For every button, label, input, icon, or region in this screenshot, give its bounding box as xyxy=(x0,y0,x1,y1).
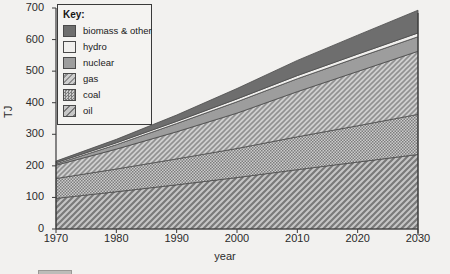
legend-label: nuclear xyxy=(83,58,114,68)
legend-item: hydro xyxy=(63,39,146,54)
legend-swatch-oil xyxy=(63,105,76,117)
legend-label: coal xyxy=(83,90,100,100)
legend-title: Key: xyxy=(63,9,146,20)
x-tick-label: 2010 xyxy=(275,233,319,244)
cropped-chip xyxy=(38,270,72,274)
y-tick-label: 500 xyxy=(10,65,44,76)
legend-label: biomass & other xyxy=(83,26,152,36)
y-tick-label: 300 xyxy=(10,128,44,139)
legend-label: hydro xyxy=(83,42,107,52)
legend-label: oil xyxy=(83,106,93,116)
cropped-bottom-strip xyxy=(0,268,450,274)
stacked-area-chart: 0100200300400500600700 19701980199020002… xyxy=(0,0,450,274)
legend-swatch-hydro xyxy=(63,41,76,53)
y-tick-label: 600 xyxy=(10,34,44,45)
y-tick-label: 100 xyxy=(10,191,44,202)
x-axis-title: year xyxy=(0,250,450,262)
x-tick-label: 1990 xyxy=(155,233,199,244)
legend-swatch-gas xyxy=(63,73,76,85)
legend-item: oil xyxy=(63,103,146,118)
y-tick-label: 700 xyxy=(10,2,44,13)
x-tick-label: 2030 xyxy=(396,233,440,244)
legend-item: gas xyxy=(63,71,146,86)
legend-swatch-biomass-other xyxy=(63,25,76,37)
legend-swatch-coal xyxy=(63,89,76,101)
y-tick-label: 400 xyxy=(10,97,44,108)
legend-swatch-nuclear xyxy=(63,57,76,69)
y-tick-label: 200 xyxy=(10,160,44,171)
x-tick-label: 2000 xyxy=(215,233,259,244)
x-tick-label: 2020 xyxy=(336,233,380,244)
x-tick-label: 1980 xyxy=(94,233,138,244)
legend-item: biomass & other xyxy=(63,23,146,38)
legend-items: biomass & otherhydronucleargascoaloil xyxy=(63,23,146,118)
legend-item: coal xyxy=(63,87,146,102)
legend-label: gas xyxy=(83,74,98,84)
chart-legend: Key: biomass & otherhydronucleargascoalo… xyxy=(57,4,152,125)
y-axis-title: TJ xyxy=(2,106,14,118)
x-tick-label: 1970 xyxy=(34,233,78,244)
x-axis-ticks: 1970198019902000201020202030 xyxy=(0,233,450,249)
legend-item: nuclear xyxy=(63,55,146,70)
